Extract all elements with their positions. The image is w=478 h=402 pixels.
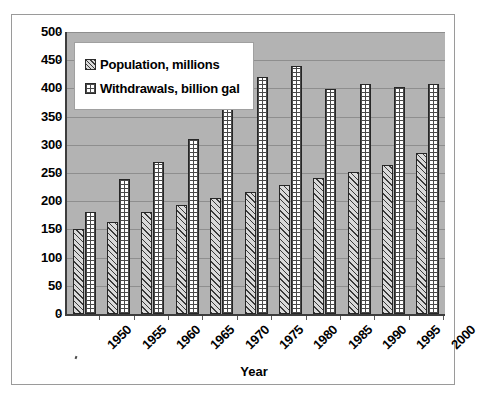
diagonal-hatch-swatch [85, 59, 96, 70]
chart-legend: Population, millions Withdrawals, billio… [74, 42, 254, 110]
x-tick-label: 1980 [310, 322, 340, 352]
bar-population [107, 222, 118, 314]
y-tick-label: 200 [18, 196, 62, 206]
y-tick-mark [58, 88, 62, 89]
legend-item-withdrawals: Withdrawals, billion gal [85, 76, 253, 100]
y-tick-mark [58, 229, 62, 230]
x-tick-label: 1975 [276, 322, 306, 352]
x-tick-mark [306, 316, 307, 320]
x-tick-label: 1950 [104, 322, 134, 352]
y-tick-label: 300 [18, 140, 62, 150]
bar-withdrawals [360, 84, 371, 314]
bar-population [382, 165, 393, 314]
bar-population [348, 172, 359, 314]
x-axis-title: Year [65, 364, 443, 379]
bar-population [313, 178, 324, 314]
x-tick-mark [409, 316, 410, 320]
bar-population [416, 153, 427, 314]
gridline [67, 32, 445, 33]
x-tick-mark [134, 316, 135, 320]
bar-population [73, 229, 84, 314]
y-tick-label: 350 [18, 112, 62, 122]
x-tick-mark [168, 316, 169, 320]
checkered-swatch [85, 83, 96, 94]
x-tick-mark [237, 316, 238, 320]
bar-withdrawals [85, 212, 96, 314]
legend-item-population: Population, millions [85, 52, 253, 76]
y-tick-label: 450 [18, 55, 62, 65]
x-tick-label: 1965 [207, 322, 237, 352]
legend-label-withdrawals: Withdrawals, billion gal [100, 81, 240, 96]
y-tick-mark [58, 145, 62, 146]
bar-withdrawals [257, 77, 268, 314]
x-tick-label: 1960 [173, 322, 203, 352]
y-tick-mark [58, 258, 62, 259]
x-tick-label: 1970 [242, 322, 272, 352]
y-tick-label: 100 [18, 253, 62, 263]
y-tick-mark [58, 173, 62, 174]
x-tick-mark [202, 316, 203, 320]
y-tick-label: 150 [18, 224, 62, 234]
bar-withdrawals [394, 87, 405, 314]
bar-withdrawals [188, 139, 199, 314]
y-tick-mark [58, 60, 62, 61]
x-tick-label: 2000 [448, 322, 478, 352]
bar-population [176, 205, 187, 314]
y-axis: 050100150200250300350400450500 [12, 32, 62, 314]
x-tick-label: 1955 [139, 322, 169, 352]
bar-population [141, 212, 152, 314]
x-tick-mark [340, 316, 341, 320]
y-tick-mark [58, 286, 62, 287]
bar-withdrawals [428, 84, 439, 314]
y-tick-label: 50 [18, 281, 62, 291]
bar-population [210, 198, 221, 314]
y-tick-mark [58, 117, 62, 118]
bar-population [245, 192, 256, 314]
bar-withdrawals [153, 162, 164, 314]
y-tick-mark [58, 32, 62, 33]
x-tick-mark [374, 316, 375, 320]
bar-population [279, 185, 290, 314]
bar-withdrawals [291, 66, 302, 314]
y-tick-label: 0 [18, 309, 62, 319]
legend-label-population: Population, millions [100, 57, 220, 72]
bar-withdrawals [325, 89, 336, 314]
y-tick-label: 500 [18, 27, 62, 37]
y-tick-mark [58, 201, 62, 202]
x-tick-mark [271, 316, 272, 320]
y-tick-label: 250 [18, 168, 62, 178]
x-tick-label: 1985 [345, 322, 375, 352]
chart-figure: 050100150200250300350400450500 Populatio… [11, 14, 455, 385]
bar-withdrawals [222, 105, 233, 314]
y-tick-label: 400 [18, 83, 62, 93]
bar-withdrawals [119, 179, 130, 314]
x-tick-label: 1995 [414, 322, 444, 352]
x-tick-mark [443, 316, 444, 320]
x-tick-label: 1990 [379, 322, 409, 352]
y-tick-mark [58, 314, 62, 315]
x-tick-mark [99, 316, 100, 320]
